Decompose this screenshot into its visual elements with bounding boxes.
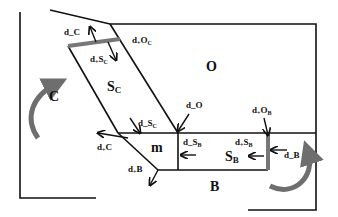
diagram-canvas — [0, 0, 338, 217]
flux-label-d-plus-oc: d+OC — [132, 36, 152, 45]
flux-label-d-minus-c: d_C — [64, 28, 80, 37]
flux-label-d-plus-ob: d+OB — [252, 106, 271, 115]
flux-label-d-plus-b: d+B — [128, 165, 142, 174]
boundary-lines — [20, 10, 316, 210]
flux-label-d-minus-sb: d_SB — [183, 138, 202, 147]
region-label-c: C — [49, 90, 59, 104]
flux-label-d-plus-sc: d+SC — [90, 55, 108, 64]
arrow-d-plus-b — [150, 170, 158, 185]
sc-membrane-bar — [68, 39, 120, 46]
flux-label-d-minus-sc: d_SC — [138, 119, 157, 128]
region-label-m: m — [151, 141, 163, 155]
flux-label-d-plus-c: d+C — [97, 143, 112, 152]
arrow-d-minus-c — [90, 27, 96, 42]
arrow-d-plus-sc — [108, 42, 116, 60]
flux-label-d-minus-o: d_O — [186, 101, 203, 110]
flux-label-d-minus-b: d_B — [284, 151, 300, 160]
region-label-o: O — [206, 60, 217, 74]
region-label-b: B — [210, 180, 219, 194]
flux-label-d-plus-sb: d+SB — [235, 138, 252, 147]
region-label-sb: SB — [225, 150, 239, 164]
top-right-boundary — [50, 10, 316, 210]
region-label-sc: SC — [107, 80, 121, 94]
arrow-d-minus-o — [178, 114, 189, 131]
